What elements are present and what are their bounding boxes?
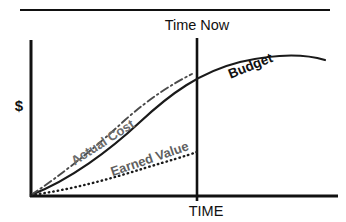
- x-axis-label: TIME: [189, 203, 224, 219]
- y-axis-label: $: [15, 97, 24, 114]
- chart-background: [0, 0, 346, 222]
- evm-chart-figure: Time Now $ TIME Budget Actual Cost Earne…: [0, 0, 346, 222]
- time-now-label: Time Now: [165, 17, 230, 33]
- chart-canvas: Time Now $ TIME Budget Actual Cost Earne…: [0, 0, 346, 222]
